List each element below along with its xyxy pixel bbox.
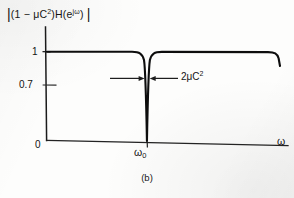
arrow-pointing-right-icon [110, 76, 145, 81]
figure-caption: (b) [0, 172, 294, 183]
y-tick-label-zero-point-seven: 0.7 [19, 79, 33, 90]
bandwidth-annotation: 2μC2 [181, 71, 203, 82]
response-curve [47, 52, 280, 141]
y-axis-line [46, 27, 47, 141]
omega-glyph: ω [134, 146, 142, 158]
x-axis-line [47, 140, 288, 145]
arrow-pointing-left-icon [150, 76, 178, 81]
bandwidth-annotation-lead: 2μC [181, 71, 200, 82]
plot-canvas [0, 0, 294, 198]
omega-zero-subscript: 0 [142, 151, 146, 160]
x-axis-label: ω [277, 135, 285, 147]
figure-panel-b: |(1 − μC2)H(ejω) | 1 0.7 0 ω0 ω [0, 0, 294, 198]
y-tick-label-one: 1 [32, 46, 38, 57]
x-tick-label-omega-zero: ω0 [134, 146, 146, 158]
bandwidth-annotation-exponent: 2 [200, 70, 204, 77]
origin-label: 0 [35, 139, 41, 150]
